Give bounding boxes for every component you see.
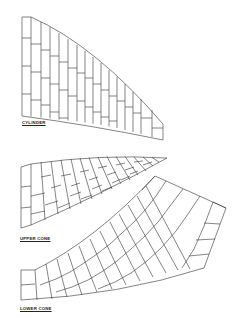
lower-cone-pattern <box>21 176 226 300</box>
pattern-drawing <box>0 0 238 323</box>
lower-cone-label: LOWER CONE <box>20 306 52 311</box>
upper-cone-label: UPPER CONE <box>20 236 50 241</box>
cylinder-label: CYLINDER <box>22 120 46 125</box>
upper-cone-pattern <box>21 157 167 229</box>
